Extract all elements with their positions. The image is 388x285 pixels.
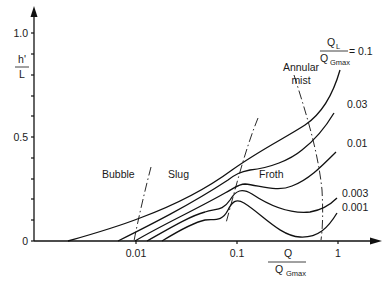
region-annular-line1: Annular (283, 61, 320, 73)
flow-regime-diagram: 1.0 0.5 0 0.01 0.1 1 h' L Q Q Gmax Q L Q… (0, 0, 388, 285)
svg-text:L: L (336, 42, 340, 51)
y-tick-05: 0.5 (13, 131, 28, 143)
curves (68, 70, 340, 241)
bubble-slug-boundary (134, 167, 151, 241)
svg-text:Q: Q (275, 263, 283, 275)
curve-001 (135, 152, 336, 241)
y-axis-label: h' L (15, 53, 29, 80)
svg-text:Q: Q (284, 247, 292, 259)
y-tick-1: 1.0 (13, 27, 28, 39)
svg-text:Q: Q (327, 36, 335, 48)
regime-boundaries (134, 75, 323, 241)
curve-label-0001: 0.001 (342, 201, 368, 213)
svg-text:= 0.1: = 0.1 (349, 45, 373, 57)
curve-0001 (162, 201, 337, 241)
curve-01 (68, 70, 340, 241)
svg-text:L: L (19, 68, 25, 80)
x-axis-arrow-icon (370, 238, 382, 245)
svg-text:h': h' (18, 53, 26, 65)
svg-text:Gmax: Gmax (286, 269, 306, 278)
x-tick-01: 0.1 (230, 247, 245, 259)
svg-text:Q: Q (320, 52, 328, 64)
curve-label-001: 0.01 (347, 137, 368, 149)
region-froth: Froth (259, 168, 284, 180)
svg-text:Gmax: Gmax (330, 58, 350, 67)
region-annular-line2: mist (291, 74, 310, 86)
y-axis-arrow-icon (31, 6, 38, 17)
curve-label-0003: 0.003 (342, 187, 368, 199)
parameter-label: Q L Q Gmax = 0.1 (320, 36, 373, 67)
x-tick-1: 1 (335, 247, 341, 259)
curve-label-003: 0.03 (347, 98, 368, 110)
curve-003 (118, 113, 334, 241)
region-bubble: Bubble (102, 168, 135, 180)
region-slug: Slug (168, 168, 189, 180)
x-tick-001: 0.01 (126, 247, 147, 259)
froth-annular-boundary (294, 75, 323, 240)
y-tick-0: 0 (22, 235, 28, 247)
x-axis-label: Q Q Gmax (268, 247, 306, 278)
